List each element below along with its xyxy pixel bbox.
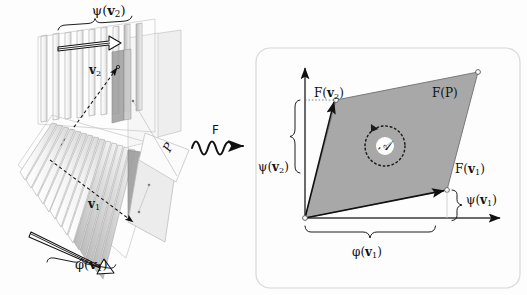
label-psi-v2-left: ψ(v2) — [92, 4, 126, 19]
label-v1: v1 — [88, 198, 100, 211]
label-map-F: F — [212, 124, 219, 136]
label-area-A: 𝒜 — [378, 139, 390, 152]
label-brace-psi-v2: ψ(v2) — [258, 161, 289, 174]
label-brace-phi-v1: φ(v1) — [352, 246, 382, 259]
label-F-v2: F(v2) — [314, 87, 344, 100]
label-F-P: F(P) — [432, 87, 458, 99]
left-panel-graphics — [0, 0, 527, 295]
label-brace-psi-v1: ψ(v1) — [466, 194, 497, 207]
brace-phi-v1 — [305, 226, 436, 238]
wavy-map-arrow — [192, 142, 243, 155]
phi-symbol: φ — [75, 257, 84, 272]
brace-psi-v2 — [290, 100, 300, 173]
label-phi-v1-left: φ(v1) — [75, 258, 107, 273]
brace-psi-v1 — [452, 190, 462, 221]
figure-canvas: ψ(v2) φ(v1) v2 v1 P F F(v2) F(P) F(v1) 𝒜… — [0, 0, 527, 295]
label-F-v1: F(v1) — [455, 163, 485, 176]
label-v2: v2 — [89, 64, 101, 77]
psi-symbol: ψ — [92, 3, 102, 18]
